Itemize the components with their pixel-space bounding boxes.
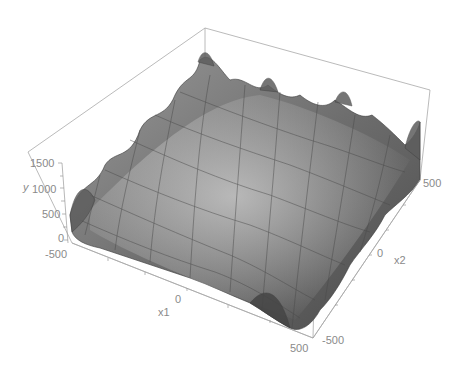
- y-tick-0: 0: [58, 232, 64, 244]
- x1-tick-500: 500: [290, 342, 308, 354]
- x2-tick-0: 0: [377, 247, 383, 259]
- x2-tick-500: 500: [423, 177, 441, 189]
- x2-axis-label: x2: [394, 254, 406, 266]
- x1-tick-0: 0: [175, 293, 181, 305]
- y-axis-label: y: [22, 181, 30, 193]
- surface: [70, 57, 420, 329]
- y-tick-1000: 1000: [32, 183, 56, 195]
- y-tick-1500: 1500: [30, 157, 54, 169]
- x1-axis-label: x1: [158, 306, 170, 318]
- surface-plot: 1500 1000 500 0 y -500 0 500 x1 -500 0 5…: [0, 0, 462, 371]
- x2-tick-neg500: -500: [322, 334, 344, 346]
- y-tick-500: 500: [42, 208, 60, 220]
- x1-tick-neg500: -500: [45, 248, 67, 260]
